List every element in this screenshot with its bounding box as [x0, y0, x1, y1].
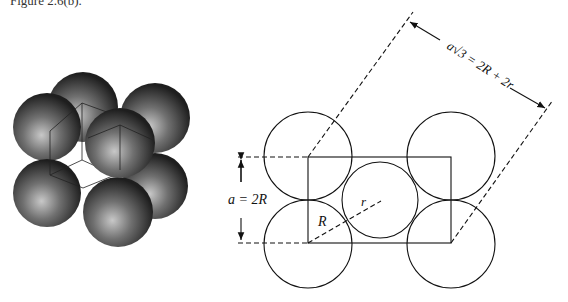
- sphere-front-bottom: [83, 177, 153, 247]
- sphere-left-bottom: [13, 159, 81, 227]
- large-radius-label: R: [317, 214, 327, 229]
- diag-dim-arrow-top: [410, 22, 440, 40]
- diagonal-label: a√3 = 2R + 2r: [444, 38, 517, 93]
- cross-section-diagram: [238, 12, 553, 288]
- small-atom-center: [342, 162, 418, 238]
- diagram-canvas: a = 2R R r a√3 = 2R + 2r: [0, 0, 568, 302]
- sphere-cluster: [13, 72, 190, 247]
- sphere-left-top: [13, 93, 81, 161]
- diag-dim-arrow-bottom: [510, 88, 545, 108]
- edge-label: a = 2R: [228, 192, 267, 207]
